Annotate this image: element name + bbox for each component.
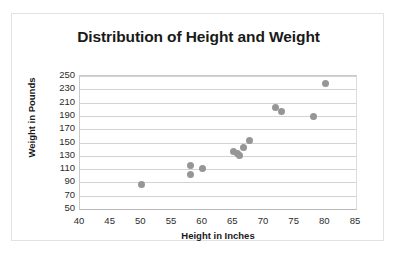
x-tick-label: 70 <box>248 215 278 226</box>
x-tick-label: 40 <box>64 215 94 226</box>
y-axis-tick-labels: 507090110130150170190210230250 <box>45 75 75 210</box>
gridline <box>80 196 356 197</box>
gridline <box>80 169 356 170</box>
y-tick-label: 130 <box>47 150 75 160</box>
data-point <box>240 144 247 151</box>
data-point <box>310 113 317 120</box>
y-tick-label: 90 <box>47 176 75 186</box>
data-point <box>199 165 206 172</box>
x-axis-title: Height in Inches <box>79 230 357 241</box>
y-tick-label: 110 <box>47 163 75 173</box>
data-point <box>187 171 194 178</box>
x-tick-label: 65 <box>217 215 247 226</box>
y-tick-label: 250 <box>47 70 75 80</box>
x-axis-tick-labels: 40455055606570758085 <box>79 215 357 229</box>
x-tick-label: 50 <box>125 215 155 226</box>
gridline <box>80 76 356 77</box>
gridline <box>80 143 356 144</box>
gridline <box>80 156 356 157</box>
y-tick-label: 150 <box>47 137 75 147</box>
x-tick-label: 85 <box>340 215 370 226</box>
gridline <box>80 103 356 104</box>
y-tick-label: 70 <box>47 190 75 200</box>
y-tick-label: 230 <box>47 83 75 93</box>
y-tick-label: 210 <box>47 97 75 107</box>
y-axis-title: Weight in Pounds <box>26 58 37 178</box>
x-tick-label: 60 <box>187 215 217 226</box>
gridline <box>80 129 356 130</box>
x-tick-label: 75 <box>279 215 309 226</box>
y-tick-label: 170 <box>47 123 75 133</box>
x-tick-label: 55 <box>156 215 186 226</box>
chart-card: Distribution of Height and Weight Weight… <box>11 13 384 241</box>
data-point <box>246 137 253 144</box>
data-point <box>236 152 243 159</box>
data-point <box>138 181 145 188</box>
gridline <box>80 182 356 183</box>
x-tick-label: 45 <box>95 215 125 226</box>
y-tick-label: 190 <box>47 110 75 120</box>
chart-title: Distribution of Height and Weight <box>12 28 385 46</box>
plot-area <box>79 75 357 210</box>
x-tick-label: 80 <box>309 215 339 226</box>
gridline <box>80 89 356 90</box>
y-tick-label: 50 <box>47 203 75 213</box>
data-point <box>322 80 329 87</box>
data-point <box>278 108 285 115</box>
data-point <box>187 162 194 169</box>
